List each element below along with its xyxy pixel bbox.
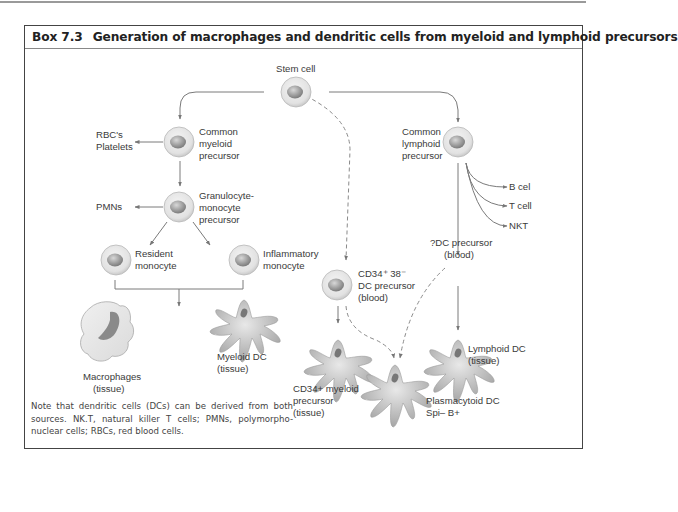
label-cd34-1: CD34⁺ 38⁻ bbox=[358, 268, 406, 279]
label-resident-2: monocyte bbox=[135, 260, 177, 271]
arrow-clp-to-nkt bbox=[466, 163, 507, 226]
resident-monocyte-icon bbox=[101, 245, 131, 275]
label-cd34-3: (blood) bbox=[358, 292, 388, 303]
arrow-gmp-to-inflammatory bbox=[193, 222, 210, 245]
label-macrophages-1: Macrophages bbox=[83, 371, 141, 382]
arrow-stem-to-cmp bbox=[180, 92, 264, 119]
dashed-cd34-to-plasmacytoid bbox=[346, 306, 394, 358]
label-gmp-2: monocyte bbox=[199, 202, 241, 213]
label-lymphoid-dc-2: (tissue) bbox=[468, 355, 499, 366]
label-cd34-myeloid-3: (tissue) bbox=[293, 407, 324, 418]
label-plasmacytoid-2: Spi– B+ bbox=[426, 407, 460, 418]
gmp-cell-icon bbox=[164, 192, 194, 222]
label-cd34-2: DC precursor bbox=[358, 280, 416, 291]
arrow-gmp-to-resident bbox=[150, 222, 167, 245]
cd34-precursor-cell-icon bbox=[322, 270, 352, 300]
label-clp-3: precursor bbox=[402, 150, 443, 161]
label-rbc-1: RBC's bbox=[96, 129, 123, 140]
label-stem-cell: Stem cell bbox=[276, 63, 315, 74]
label-plasmacytoid-1: Plasmacytoid DC bbox=[426, 395, 500, 406]
label-dc-precursor-2: (blood) bbox=[444, 249, 474, 260]
clp-cell-icon bbox=[443, 127, 473, 157]
bracket-monocytes bbox=[115, 280, 243, 289]
label-b-cell: B cel bbox=[509, 181, 530, 192]
label-macrophages-2: (tissue) bbox=[93, 383, 124, 394]
label-gmp-1: Granulocyte- bbox=[199, 190, 254, 201]
label-t-cell: T cell bbox=[509, 200, 532, 211]
label-lymphoid-dc-1: Lymphoid DC bbox=[468, 343, 526, 354]
arrow-stem-to-clp bbox=[329, 92, 458, 122]
label-myeloid-dc-2: (tissue) bbox=[217, 363, 248, 374]
dashed-stem-to-cd34 bbox=[306, 96, 350, 260]
label-inflammatory-1: Inflammatory bbox=[263, 248, 319, 259]
macrophage-icon bbox=[81, 302, 134, 361]
label-cmp-1: Common bbox=[199, 126, 238, 137]
label-clp-1: Common bbox=[402, 126, 441, 137]
label-rbc-2: Platelets bbox=[96, 141, 133, 152]
label-pmn: PMNs bbox=[96, 201, 122, 212]
label-myeloid-dc-1: Myeloid DC bbox=[217, 351, 267, 362]
inflammatory-monocyte-icon bbox=[229, 245, 259, 275]
label-resident-1: Resident bbox=[135, 248, 173, 259]
label-dc-precursor-1: ?DC precursor bbox=[430, 237, 493, 248]
label-cmp-3: precursor bbox=[199, 150, 240, 161]
label-gmp-3: precursor bbox=[199, 214, 240, 225]
label-cd34-myeloid-2: precursor bbox=[293, 395, 334, 406]
label-cmp-2: myeloid bbox=[199, 138, 232, 149]
label-nkt: NKT bbox=[509, 220, 528, 231]
stem-cell-icon bbox=[281, 77, 311, 107]
footnote: Note that dendritic cells (DCs) can be d… bbox=[31, 400, 293, 438]
label-clp-2: lymphoid bbox=[402, 138, 440, 149]
label-inflammatory-2: monocyte bbox=[263, 260, 305, 271]
cmp-cell-icon bbox=[164, 127, 194, 157]
label-cd34-myeloid-1: CD34+ myeloid bbox=[293, 383, 359, 394]
plasmacytoid-dc-icon bbox=[361, 365, 431, 427]
